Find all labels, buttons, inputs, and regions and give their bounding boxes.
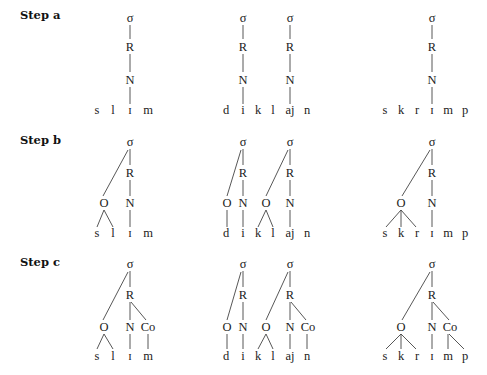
segment: l [271,226,275,240]
onset-node: O [222,196,231,210]
syllable-node: σ [240,11,247,25]
association-line [104,334,113,349]
rhyme-node: R [239,40,248,54]
coda-node: Co [301,320,316,334]
segment: k [398,103,405,117]
segment: ɪ [430,103,433,117]
association-line [266,334,273,349]
segment: s [383,103,388,117]
syllable-node: σ [287,11,294,25]
segment: s [95,349,100,363]
segment: k [398,226,405,240]
syllable-node: σ [287,135,294,149]
segment: d [223,349,230,363]
rhyme-node: R [428,166,437,180]
association-line [104,210,113,227]
coda-node: Co [141,320,156,334]
nucleus-node: N [125,196,134,210]
association-line [266,150,288,196]
association-line [258,210,266,227]
segment: ɪ [128,226,131,240]
segment: l [271,349,275,363]
syllable-node: σ [429,135,436,149]
tree-c-slim: σ R O N Co s l ɪ m [95,257,156,363]
segment: r [415,226,420,240]
association-line [402,150,430,196]
association-line [402,272,430,320]
syllable-node: σ [287,257,294,271]
syllable-node: σ [240,257,247,271]
syllable-node: σ [429,257,436,271]
segment: s [383,349,388,363]
nucleus-node: N [285,320,294,334]
rhyme-node: R [286,288,295,302]
segment: p [462,226,468,240]
onset-node: O [261,196,270,210]
segment: k [255,226,262,240]
rhyme-node: R [126,40,135,54]
rhyme-node: R [286,166,295,180]
segment: aj [285,103,294,117]
association-line [266,210,273,227]
nucleus-node: N [285,73,294,87]
nucleus-node: N [427,73,436,87]
nucleus-node: N [125,73,134,87]
nucleus-node: N [238,320,247,334]
tree-b-dikl: σ R O N σ R O N d i k l aj n [222,135,310,240]
rhyme-node: R [239,166,248,180]
association-line [449,334,464,349]
segment: p [462,103,468,117]
association-line [386,334,401,349]
segment: ɪ [128,349,131,363]
segment: r [415,349,420,363]
association-line [386,210,401,227]
segment: ɪ [430,226,433,240]
association-line [97,334,104,349]
tree-a-dikl: σ R N σ R N d i k l aj n [223,11,311,117]
nucleus-node: N [285,196,294,210]
tree-a-slim: σ R N s l ɪ m [95,11,154,117]
segment: i [241,103,245,117]
association-line [401,334,416,349]
association-line [258,334,266,349]
segment: s [383,226,388,240]
segment: m [143,349,153,363]
syllable-node: σ [127,257,134,271]
segment: p [462,349,468,363]
rhyme-node: R [428,40,437,54]
association-line [103,150,128,196]
rhyme-node: R [286,40,295,54]
syllable-node: σ [127,135,134,149]
step-c-trees: σ R O N Co s l ɪ m σ R O N [95,257,469,363]
segment: m [443,226,453,240]
association-line [266,272,288,320]
rhyme-node: R [428,288,437,302]
segment: l [271,103,275,117]
onset-node: O [261,320,270,334]
segment: n [304,349,311,363]
association-line [291,302,306,320]
segment: m [443,349,453,363]
segment: m [143,226,153,240]
rhyme-node: R [239,288,248,302]
tree-c-skrimp: σ R O N Co s k r ɪ m p [383,257,469,363]
segment: d [223,103,230,117]
segment: s [95,103,100,117]
syllabification-diagram: σ R N s l ɪ m σ R N σ R N d i k [0,0,487,375]
segment: k [255,103,262,117]
syllable-node: σ [127,11,134,25]
onset-node: O [222,320,231,334]
segment: d [223,226,230,240]
coda-node: Co [443,320,458,334]
segment: m [143,103,153,117]
tree-a-skrimp: σ R N s k r ɪ m p [383,11,469,117]
syllable-node: σ [429,11,436,25]
step-a-trees: σ R N s l ɪ m σ R N σ R N d i k [95,11,469,117]
segment: i [241,226,245,240]
segment: l [111,226,115,240]
segment: i [241,349,245,363]
segment: m [443,103,453,117]
tree-c-dikl: σ R O N σ R O N Co d i k l aj [222,257,315,363]
nucleus-node: N [238,196,247,210]
nucleus-node: N [125,320,134,334]
